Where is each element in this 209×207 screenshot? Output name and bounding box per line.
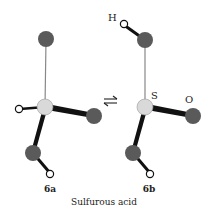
bond-s-o-top	[45, 40, 46, 107]
atom-hydrogen-top	[120, 20, 127, 27]
atom-hydrogen-left	[15, 105, 22, 112]
sulfurous-acid-diagram: H S O 6a 6b Sulfurous acid	[0, 0, 209, 207]
atom-label-h: H	[108, 12, 117, 23]
atom-oxygen-top	[38, 31, 54, 47]
structure-6b: H S O	[108, 12, 201, 178]
atom-label-s: S	[151, 90, 158, 101]
structure-label-6a: 6a	[44, 184, 56, 194]
figure-caption: Sulfurous acid	[71, 197, 137, 207]
atom-oxygen-right	[185, 108, 201, 124]
structure-6a	[15, 31, 102, 178]
atom-oxygen-lower	[25, 145, 41, 161]
atom-sulfur	[137, 99, 153, 115]
atom-sulfur	[37, 99, 53, 115]
equilibrium-arrows-icon	[104, 96, 117, 106]
structure-label-6b: 6b	[143, 184, 156, 194]
atom-oxygen-top	[137, 32, 153, 48]
atom-oxygen-right	[86, 108, 102, 124]
atom-hydrogen-lower	[146, 170, 153, 177]
atom-label-o: O	[185, 94, 193, 105]
atom-oxygen-lower	[125, 145, 141, 161]
atom-hydrogen-lower	[46, 170, 53, 177]
